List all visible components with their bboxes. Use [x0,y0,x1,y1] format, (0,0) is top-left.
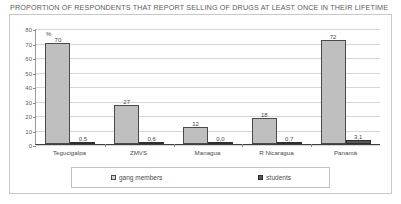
bar-1: 0,6 [139,142,164,144]
bar-group: 180,7 [242,29,311,144]
page-title: PROPORTION OF RESPONDENTS THAT REPORT SE… [10,3,395,12]
bar-group: 700,5 [36,29,105,144]
plot-area: % 80706050403020100700,5270,6120,0180,77… [35,29,380,145]
y-axis-tick-label: 0 [29,143,32,149]
x-axis-category-label: Panamá [311,149,380,156]
bar-group: 270,6 [105,29,174,144]
legend-item[interactable]: gang members [111,174,162,181]
plot-wrapper: % 80706050403020100700,5270,6120,0180,77… [10,15,393,161]
y-axis-tick-label: 70 [25,42,32,48]
y-axis-tick-label: 20 [25,114,32,120]
y-axis-tick-label: 50 [25,71,32,77]
chart-legend: gang membersstudents [71,167,330,188]
bar-value-label: 0,7 [285,136,293,142]
bar-value-label: 0,6 [148,136,156,142]
x-axis-tick-mark [174,144,175,147]
bar-pair: 180,7 [242,29,311,144]
y-axis-tick-label: 40 [25,85,32,91]
bar-pair: 700,5 [36,29,105,144]
x-axis-tick-mark [105,144,106,147]
legend-label: students [266,174,291,181]
chart-frame: % 80706050403020100700,5270,6120,0180,77… [9,14,392,194]
bar-1: 0,0 [208,142,233,144]
legend-swatch-icon [111,175,116,180]
bar-value-label: 72 [330,34,337,40]
bar-1: 0,7 [277,142,302,144]
chart-figure: PROPORTION OF RESPONDENTS THAT REPORT SE… [0,0,401,204]
y-axis-tick-label: 30 [25,100,32,106]
bar-0: 27 [114,105,139,144]
y-axis-tick-label: 80 [25,27,32,33]
bar-group: 723,1 [311,29,380,144]
bar-1: 0,5 [70,142,95,144]
bar-pair: 723,1 [311,29,380,144]
x-axis-tick-mark [311,144,312,147]
bar-value-label: 27 [123,99,130,105]
y-axis-tick-mark [33,146,36,147]
bar-value-label: 18 [261,112,268,118]
y-axis-tick-label: 10 [25,129,32,135]
bar-0: 12 [183,127,208,144]
bar-value-label: 3,1 [354,134,362,140]
bar-value-label: 12 [192,121,199,127]
bar-pair: 270,6 [105,29,174,144]
x-axis-tick-mark [242,144,243,147]
legend-label: gang members [119,174,162,181]
x-axis-category-label: ZMVS [104,149,173,156]
legend-swatch-icon [258,175,263,180]
bar-0: 72 [321,40,346,144]
bar-pair: 120,0 [174,29,243,144]
bar-1: 3,1 [346,140,371,144]
bar-group: 120,0 [174,29,243,144]
y-axis-tick-label: 60 [25,56,32,62]
bar-value-label: 70 [55,37,62,43]
x-axis-category-label: R Nicaragua [242,149,311,156]
legend-item[interactable]: students [258,174,291,181]
gridline: 0 [36,145,380,146]
bar-groups: 700,5270,6120,0180,7723,1 [36,29,380,144]
x-axis-category-label: Managua [173,149,242,156]
bar-0: 70 [45,43,70,145]
bar-0: 18 [252,118,277,144]
x-axis-labels: TegucigalpaZMVSManaguaR NicaraguaPanamá [35,149,380,156]
bar-value-label: 0,0 [216,136,224,142]
x-axis-category-label: Tegucigalpa [35,149,104,156]
bar-value-label: 0,5 [79,136,87,142]
